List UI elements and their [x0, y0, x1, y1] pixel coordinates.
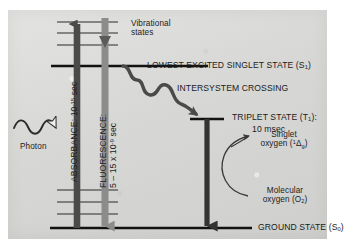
molecular-oxygen-line2-a: oxygen (O [263, 195, 302, 204]
intersystem-crossing-label: INTERSYSTEM CROSSING [177, 84, 288, 94]
vibrational-states-line1: Vibrational [131, 19, 171, 28]
triplet-state-paren: ): [311, 112, 316, 122]
vibrational-relaxation-arrowhead [99, 36, 111, 48]
lowest-excited-singlet-paren: ) [308, 60, 311, 70]
lowest-excited-singlet-state-label: LOWEST EXCITED SINGLET STATE (S1) [147, 61, 311, 71]
fluorescence-line2: 5 – 15 x 10-9 sec [109, 114, 119, 188]
fluorescence-units: sec [108, 123, 118, 139]
fluorescence-line2-a: 5 – 15 x 10 [108, 144, 118, 188]
absorbance-label: ABSORBANCE: 10-15 sec [70, 82, 80, 182]
singlet-oxygen-paren: ) [305, 140, 308, 149]
vibrational-states-line2: states [131, 28, 153, 37]
vibrational-sublevels-lower [57, 190, 118, 214]
molecular-oxygen-line1: Molecular [267, 186, 303, 195]
singlet-oxygen-line1: Singlet [271, 130, 297, 139]
absorbance-exponent: -15 [70, 98, 76, 107]
fluorescence-exponent: -9 [109, 139, 115, 144]
molecular-oxygen-label: Molecular oxygen (O2) [245, 186, 325, 205]
ground-state-paren: ) [341, 222, 344, 232]
absorbance-units: sec [69, 82, 79, 98]
fluorescence-label: FLUORESCENCE: 5 – 15 x 10-9 sec [99, 114, 119, 188]
photon-wave [14, 120, 55, 134]
singlet-oxygen-line2-a: oxygen ( [260, 140, 292, 149]
lowest-excited-singlet-text: LOWEST EXCITED SINGLET STATE (S [147, 60, 305, 70]
absorbance-text: ABSORBANCE: 10 [69, 107, 79, 182]
triplet-state-text: TRIPLET STATE (T [232, 112, 308, 122]
vibrational-sublevels-upper [57, 22, 118, 45]
molecular-oxygen-paren: ) [305, 195, 308, 204]
photon-label: Photon [20, 142, 47, 151]
vibrational-states-label: Vibrational states [131, 19, 171, 37]
triplet-state-label: TRIPLET STATE (T1): [232, 113, 317, 123]
ground-state-text: GROUND STATE (S [258, 222, 337, 232]
singlet-oxygen-label: Singlet oxygen (1Δg) [245, 130, 323, 149]
ground-state-label: GROUND STATE (S0) [258, 223, 344, 233]
